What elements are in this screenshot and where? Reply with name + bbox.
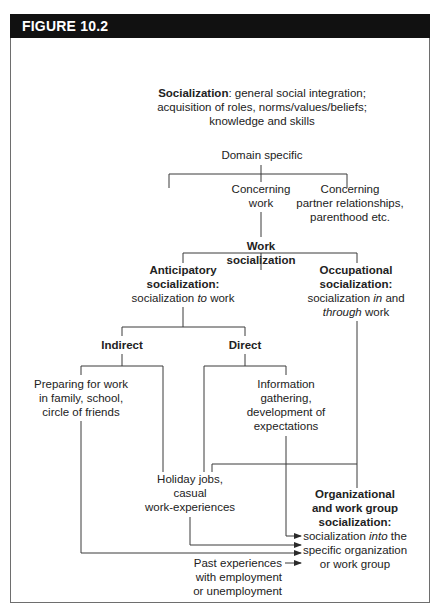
svg-text:Work: Work [247,240,276,252]
svg-text:Concerning: Concerning [232,183,291,195]
node-concerning-work: Concerning work [232,183,291,209]
svg-text:Past experiences: Past experiences [194,557,282,569]
svg-text:Occupational: Occupational [320,264,393,276]
node-concerning-partner: Concerning partner relationships, parent… [296,183,403,223]
svg-text:work-experiences: work-experiences [144,501,235,513]
svg-text:Concerning: Concerning [321,183,380,195]
svg-text:Information: Information [257,378,315,390]
diagram-canvas: Socialization: general social integratio… [0,0,442,615]
svg-text:acquisition of roles, norms/va: acquisition of roles, norms/values/belie… [157,101,367,113]
node-preparing: Preparing for work in family, school, ci… [34,378,128,418]
node-domain-specific: Domain specific [221,149,302,161]
svg-text:socialization:: socialization: [147,278,220,290]
svg-text:work: work [248,197,274,209]
svg-text:Preparing for work: Preparing for work [34,378,128,390]
node-occupational: Occupational socialization: socializatio… [307,264,404,318]
svg-text:parenthood etc.: parenthood etc. [310,211,390,223]
svg-text:gathering,: gathering, [260,392,311,404]
node-information: Information gathering, development of ex… [247,378,326,432]
svg-text:with employment: with employment [195,571,283,583]
svg-text:partner relationships,: partner relationships, [296,197,403,209]
node-anticipatory: Anticipatory socialization: socializatio… [132,264,235,304]
svg-text:socialization:: socialization: [320,278,393,290]
svg-text:in family, school,: in family, school, [39,392,123,404]
svg-text:Holiday jobs,: Holiday jobs, [157,473,223,485]
svg-text:specific organization: specific organization [303,544,407,556]
svg-text:through work: through work [323,306,390,318]
arrow-information-to-org [286,436,301,536]
svg-text:or work group: or work group [320,558,390,570]
svg-text:and work group: and work group [312,502,398,514]
svg-text:socialization to work: socialization to work [132,292,235,304]
svg-text:Anticipatory: Anticipatory [149,264,217,276]
svg-text:circle of friends: circle of friends [42,406,120,418]
svg-text:socialization into the: socialization into the [303,530,407,542]
node-direct: Direct [229,339,262,351]
node-past: Past experiences with employment or unem… [193,557,283,597]
node-holiday: Holiday jobs, casual work-experiences [144,473,235,513]
node-organizational: Organizational and work group socializat… [303,488,407,570]
svg-text:development of: development of [247,406,326,418]
svg-text:knowledge and skills: knowledge and skills [209,115,315,127]
node-socialization: Socialization: general social integratio… [157,87,367,127]
svg-text:Organizational: Organizational [315,488,395,500]
svg-text:socialization in and: socialization in and [307,292,404,304]
svg-text:expectations: expectations [254,420,319,432]
svg-text:Socialization: general social: Socialization: general social integratio… [158,87,366,99]
svg-text:socialization:: socialization: [319,516,392,528]
node-indirect: Indirect [101,339,143,351]
connector-anticipatory [122,307,245,336]
arrow-holiday-to-org [190,517,301,545]
svg-text:casual: casual [173,487,206,499]
svg-text:or unemployment: or unemployment [193,585,283,597]
